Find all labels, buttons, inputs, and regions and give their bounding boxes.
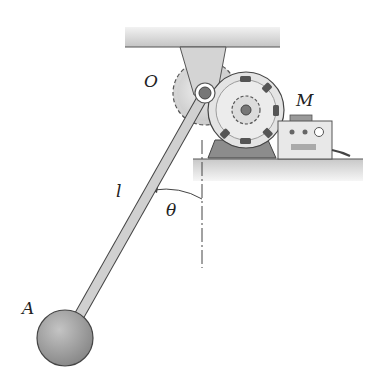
ceiling-support	[125, 27, 280, 47]
pendulum-mass	[37, 310, 93, 366]
label-mass-a: A	[22, 300, 34, 317]
pendulum-rod	[66, 93, 205, 339]
label-length-l: l	[116, 183, 121, 200]
motor	[208, 72, 284, 158]
label-pivot-o: O	[144, 73, 158, 90]
diagram-canvas	[0, 0, 366, 383]
label-angle-theta: θ	[166, 202, 176, 219]
label-motor-m: M	[296, 92, 313, 109]
motor-control-box	[278, 115, 350, 159]
theta-arc	[151, 187, 202, 199]
pivot-pin	[195, 83, 215, 103]
motor-floor	[193, 159, 363, 181]
